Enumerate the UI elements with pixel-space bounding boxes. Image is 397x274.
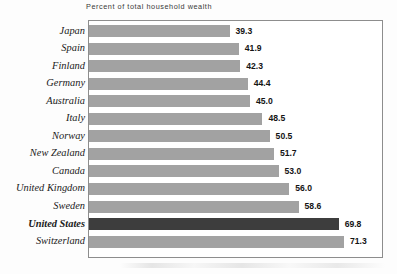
bar bbox=[89, 165, 279, 177]
bar-highlighted bbox=[89, 218, 339, 230]
bar-value-label: 56.0 bbox=[295, 182, 312, 194]
bar bbox=[89, 236, 344, 248]
bar bbox=[89, 148, 274, 160]
bar-value-label: 50.5 bbox=[276, 130, 293, 142]
bar bbox=[89, 201, 299, 213]
bar-row: 56.0 bbox=[89, 183, 382, 195]
category-label-column: JapanSpainFinlandGermanyAustraliaItalyNo… bbox=[0, 20, 85, 258]
bar-chart-figure: Percent of total household wealth JapanS… bbox=[0, 0, 397, 274]
bar-row: 44.4 bbox=[89, 78, 382, 90]
bar bbox=[89, 78, 248, 90]
bar-row: 39.3 bbox=[89, 25, 382, 37]
bar-value-label: 44.4 bbox=[254, 77, 271, 89]
category-label: Finland bbox=[0, 60, 85, 71]
bar-value-label: 42.3 bbox=[246, 60, 263, 72]
bar-row: 69.8 bbox=[89, 218, 382, 230]
bar-row: 50.5 bbox=[89, 130, 382, 142]
category-label: United States bbox=[0, 218, 85, 229]
category-label: Spain bbox=[0, 42, 85, 53]
bar-value-label: 53.0 bbox=[285, 165, 302, 177]
bar-row: 48.5 bbox=[89, 113, 382, 125]
category-label: United Kingdom bbox=[0, 182, 85, 193]
bar-value-label: 39.3 bbox=[236, 25, 253, 37]
category-label: Canada bbox=[0, 165, 85, 176]
plot-area: 39.341.942.344.445.048.550.551.753.056.0… bbox=[89, 21, 382, 257]
bar bbox=[89, 95, 250, 107]
bar-value-label: 69.8 bbox=[345, 218, 362, 230]
bar bbox=[89, 43, 239, 55]
bar bbox=[89, 113, 262, 125]
bar-row: 42.3 bbox=[89, 60, 382, 72]
bar-value-label: 71.3 bbox=[350, 235, 367, 247]
category-label: Switzerland bbox=[0, 235, 85, 246]
category-label: Japan bbox=[0, 25, 85, 36]
bar-value-label: 41.9 bbox=[245, 42, 262, 54]
scan-artifact bbox=[120, 263, 385, 268]
bar bbox=[89, 130, 270, 142]
bar-row: 41.9 bbox=[89, 43, 382, 55]
bar-row: 51.7 bbox=[89, 148, 382, 160]
category-label: Germany bbox=[0, 77, 85, 88]
chart-title: Percent of total household wealth bbox=[86, 2, 212, 11]
bar bbox=[89, 60, 240, 72]
bar-row: 58.6 bbox=[89, 201, 382, 213]
bar-row: 45.0 bbox=[89, 95, 382, 107]
bar bbox=[89, 183, 289, 195]
category-label: Norway bbox=[0, 130, 85, 141]
category-label: Italy bbox=[0, 112, 85, 123]
bar-row: 53.0 bbox=[89, 165, 382, 177]
bar-value-label: 58.6 bbox=[305, 200, 322, 212]
category-label: Australia bbox=[0, 95, 85, 106]
category-label: New Zealand bbox=[0, 147, 85, 158]
bar-value-label: 48.5 bbox=[268, 112, 285, 124]
bar-row: 71.3 bbox=[89, 236, 382, 248]
category-label: Sweden bbox=[0, 200, 85, 211]
bar-value-label: 51.7 bbox=[280, 147, 297, 159]
bar bbox=[89, 25, 230, 37]
bar-value-label: 45.0 bbox=[256, 95, 273, 107]
